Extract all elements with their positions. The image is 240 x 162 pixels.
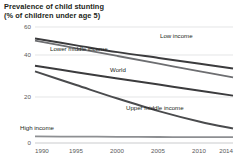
y-tick-20: 20	[24, 93, 31, 100]
series-label-lower-middle-income: Lower middle income	[50, 45, 108, 52]
x-tick-1990: 1990	[35, 147, 49, 154]
chart-container: Prevalence of child stunting (% of child…	[0, 0, 240, 162]
x-tick-2005: 2005	[151, 147, 165, 154]
y-tick-0: 0	[28, 139, 32, 146]
x-tick-2014: 2014	[219, 147, 233, 154]
series-label-low-income: Low income	[160, 32, 193, 39]
series-line-high-income	[35, 136, 233, 137]
chart-svg: 60 40 20 0 1990 1995 2000 2005 2010 2014…	[0, 0, 240, 162]
y-tick-40: 40	[24, 51, 31, 58]
series-label-upper-middle-income: Upper middle income	[126, 104, 184, 111]
series-label-high-income: High income	[20, 124, 54, 131]
y-tick-60: 60	[24, 23, 31, 30]
x-tick-2000: 2000	[110, 147, 124, 154]
x-tick-1995: 1995	[69, 147, 83, 154]
x-tick-2010: 2010	[192, 147, 206, 154]
series-label-world: World	[110, 66, 126, 73]
series-line-low-income	[35, 39, 233, 69]
